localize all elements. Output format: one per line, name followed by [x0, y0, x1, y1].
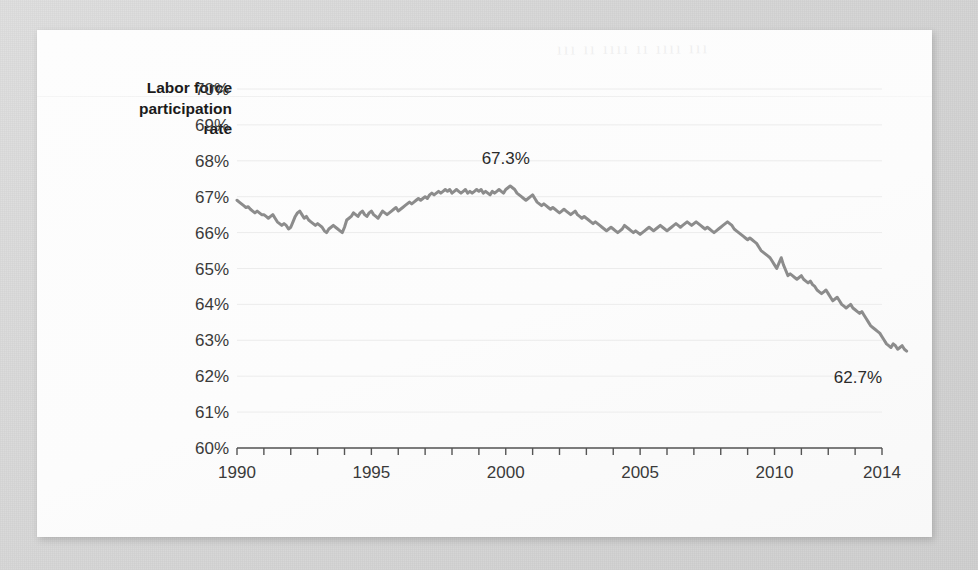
- x-tick-label: 2010: [756, 463, 794, 482]
- y-tick-label: 60%: [195, 439, 229, 458]
- x-axis-tick-labels: 199019952000200520102014: [218, 463, 901, 482]
- y-tick-label: 66%: [195, 224, 229, 243]
- y-tick-label: 64%: [195, 295, 229, 314]
- x-tick-label: 2000: [487, 463, 525, 482]
- chart-card: ııı ıı ıııı ıı ıııı ııı Labor force part…: [37, 30, 932, 537]
- data-annotation-label: 67.3%: [482, 149, 530, 168]
- chart-plot-area: 70%69%68%67%66%65%64%63%62%61%60% 199019…: [37, 30, 932, 537]
- y-tick-label: 62%: [195, 367, 229, 386]
- y-tick-label: 63%: [195, 331, 229, 350]
- x-tick-label: 1995: [352, 463, 390, 482]
- x-axis-minor-ticks: [237, 448, 882, 455]
- x-tick-label: 2014: [863, 463, 901, 482]
- y-axis-tick-labels: 70%69%68%67%66%65%64%63%62%61%60%: [195, 80, 229, 458]
- x-tick-label: 1990: [218, 463, 256, 482]
- y-tick-label: 70%: [195, 80, 229, 99]
- y-tick-label: 69%: [195, 116, 229, 135]
- y-tick-label: 65%: [195, 260, 229, 279]
- data-annotation-label: 62.7%: [834, 368, 882, 387]
- y-tick-label: 61%: [195, 403, 229, 422]
- x-tick-label: 2005: [621, 463, 659, 482]
- photo-page: ııı ıı ıııı ıı ıııı ııı Labor force part…: [0, 0, 978, 570]
- line-chart: 70%69%68%67%66%65%64%63%62%61%60% 199019…: [37, 30, 932, 537]
- y-tick-label: 67%: [195, 188, 229, 207]
- y-tick-label: 68%: [195, 152, 229, 171]
